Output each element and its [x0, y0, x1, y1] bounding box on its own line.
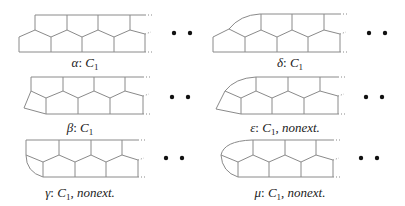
- continuation-dot: [164, 156, 168, 160]
- panel-alpha: α: C1: [19, 15, 192, 72]
- panel-label-beta: β: C1: [66, 120, 94, 137]
- continuation-dot: [367, 31, 371, 35]
- continuation-dot: [364, 95, 368, 99]
- panel-delta: δ: C1: [213, 14, 387, 72]
- strip-diagram: α: C1 δ: C1 β: C1: [0, 0, 405, 206]
- panel-epsilon: ε: C1, nonext.: [216, 77, 384, 137]
- continuation-dot: [188, 31, 192, 35]
- continuation-dot: [383, 31, 387, 35]
- continuation-dot: [170, 95, 174, 99]
- panel-label-alpha: α: C1: [72, 55, 99, 72]
- continuation-dot: [180, 156, 184, 160]
- panel-label-gamma: γ: C1, nonext.: [45, 185, 115, 202]
- panel-label-epsilon: ε: C1, nonext.: [250, 120, 320, 137]
- continuation-dot: [380, 95, 384, 99]
- continuation-dot: [186, 95, 190, 99]
- continuation-dot: [359, 156, 363, 160]
- panel-label-delta: δ: C1: [277, 55, 303, 72]
- panel-label-mu: μ: C1, nonext.: [254, 185, 326, 202]
- continuation-dot: [172, 31, 176, 35]
- panel-gamma: γ: C1, nonext.: [26, 140, 184, 202]
- panel-mu: μ: C1, nonext.: [221, 140, 379, 202]
- panel-beta: β: C1: [24, 77, 190, 137]
- continuation-dot: [375, 156, 379, 160]
